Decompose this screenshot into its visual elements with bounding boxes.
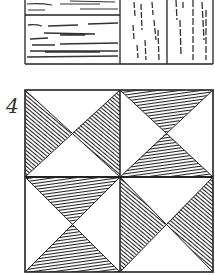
figure-illustration — [0, 0, 215, 275]
figure-number-label: 4 — [6, 96, 19, 116]
wood-grain-panel — [25, 0, 213, 64]
quadrant-top-right — [120, 90, 213, 177]
vertical-grain-left — [133, 2, 159, 60]
vertical-grain-right — [176, 0, 206, 60]
horizontal-grain-upper — [27, 1, 118, 10]
quadrant-bottom-right — [120, 177, 213, 272]
quadrant-bottom-left — [25, 177, 120, 272]
quadrant-top-left — [25, 90, 120, 177]
horizontal-grain-lower — [27, 23, 118, 57]
quilt-block — [25, 90, 213, 272]
